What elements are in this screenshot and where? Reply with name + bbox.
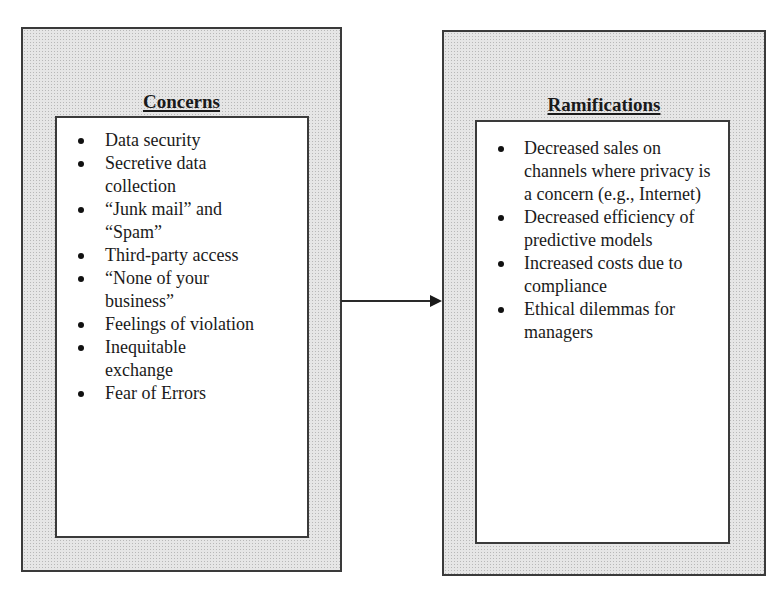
list-item: Feelings of violation [57, 313, 305, 336]
concerns-title: Concerns [23, 91, 340, 113]
ramifications-panel: Ramifications Decreased sales on channel… [442, 30, 766, 576]
arrow-right-icon [340, 292, 444, 310]
list-item: Data security [57, 129, 275, 152]
ramifications-list: Decreased sales on channels where privac… [477, 137, 728, 344]
ramifications-list-box: Decreased sales on channels where privac… [475, 120, 730, 544]
concerns-panel: Concerns Data security Secretive data co… [21, 27, 342, 572]
list-item: Secretive data collection [57, 152, 235, 198]
list-item: Third-party access [57, 244, 295, 267]
concerns-list-box: Data security Secretive data collection … [55, 116, 309, 538]
list-item: “Junk mail” and “Spam” [57, 198, 245, 244]
ramifications-title: Ramifications [444, 94, 764, 116]
list-item: Increased costs due to compliance [477, 252, 704, 298]
list-item: Decreased efficiency of predictive model… [477, 206, 724, 252]
list-item: Ethical dilemmas for managers [477, 298, 714, 344]
list-item: Inequitable exchange [57, 336, 235, 382]
list-item: Fear of Errors [57, 382, 275, 405]
list-item: Decreased sales on channels where privac… [477, 137, 714, 206]
list-item: “None of your business” [57, 267, 235, 313]
concerns-list: Data security Secretive data collection … [57, 129, 307, 405]
